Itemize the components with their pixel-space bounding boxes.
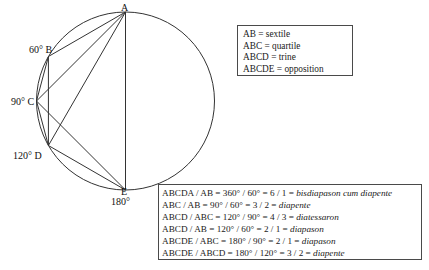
chord-AD — [48, 12, 125, 146]
chord-CE — [37, 101, 126, 190]
ratio-expression: ABCDE / ABC = 180° / 90° = 2 / 1 = — [162, 236, 302, 246]
definition-line: ABC = quartile — [243, 41, 352, 53]
ratio-term: diapason — [290, 224, 324, 234]
chord-AC — [37, 12, 126, 101]
chord-group — [37, 12, 126, 190]
vertex-label-e-degree: 180° — [111, 196, 130, 207]
ratio-line: ABCD / AB = 120° / 60° = 2 / 1 = diapaso… — [162, 223, 421, 235]
ratio-expression: ABCD / ABC = 120° / 90° = 4 / 3 = — [162, 212, 296, 222]
chord-AB — [48, 12, 125, 57]
ratio-term: diatessaron — [296, 212, 339, 222]
vertex-label-c: 90° C — [11, 96, 34, 107]
ratio-term: bisdiapason cum diapente — [296, 188, 392, 198]
definition-line: AB = sextile — [243, 29, 352, 41]
chord-DE — [48, 146, 125, 191]
ratios-legend-box: ABCDA / AB = 360° / 60° = 6 / 1 = bisdia… — [158, 184, 422, 260]
definitions-legend-box: AB = sextileABC = quartileABCD = trineAB… — [237, 25, 353, 76]
ratio-term: diapason — [302, 236, 336, 246]
ratio-term: diapente — [313, 248, 345, 258]
figure-root: A 60° B 90° C 120° D E 180° AB = sextile… — [0, 0, 429, 270]
vertex-label-b: 60° B — [29, 44, 52, 55]
ratio-line: ABCD / ABC = 120° / 90° = 4 / 3 = diates… — [162, 211, 421, 223]
chord-CD — [37, 101, 49, 146]
chord-BC — [37, 57, 49, 102]
definition-line: ABCDE = opposition — [243, 64, 352, 76]
definition-line: ABCD = trine — [243, 52, 352, 64]
vertex-label-a: A — [121, 2, 128, 13]
ratio-expression: ABCDE / ABCD = 180° / 120° = 3 / 2 = — [162, 248, 313, 258]
ratio-expression: ABCD / AB = 120° / 60° = 2 / 1 = — [162, 224, 290, 234]
ratio-line: ABCDE / ABCD = 180° / 120° = 3 / 2 = dia… — [162, 247, 421, 259]
ratio-term: diapente — [279, 200, 311, 210]
ratio-expression: ABCDA / AB = 360° / 60° = 6 / 1 = — [162, 188, 296, 198]
ratio-line: ABCDE / ABC = 180° / 90° = 2 / 1 = diapa… — [162, 235, 421, 247]
ratio-line: ABCDA / AB = 360° / 60° = 6 / 1 = bisdia… — [162, 187, 421, 199]
vertex-label-d: 120° D — [13, 150, 42, 161]
ratio-line: ABC / AB = 90° / 60° = 3 / 2 = diapente — [162, 199, 421, 211]
ratio-expression: ABC / AB = 90° / 60° = 3 / 2 = — [162, 200, 279, 210]
